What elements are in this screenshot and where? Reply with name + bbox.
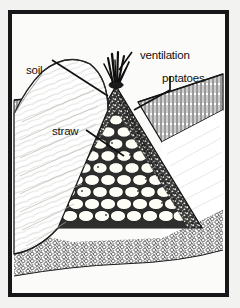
label-soil: soil [26,64,42,76]
label-ventilation: ventilation [140,49,190,61]
clamp-diagram [12,14,225,293]
label-straw: straw [52,125,78,137]
label-potatoes: potatoes [162,72,205,84]
figure-frame: ventilation potatoes soil straw [8,10,229,297]
